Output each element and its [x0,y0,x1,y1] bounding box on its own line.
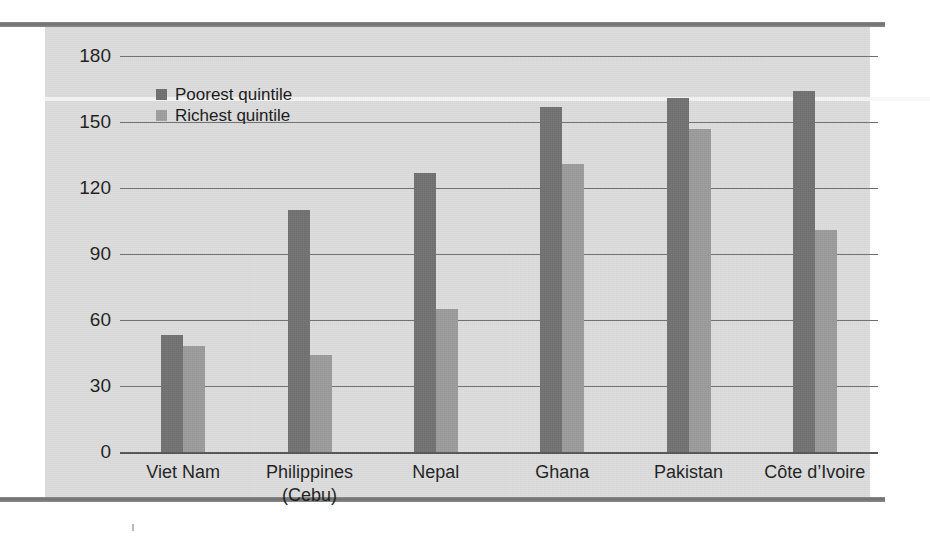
legend-label-richest: Richest quintile [175,106,290,126]
x-tick-label-line1: Ghana [499,461,625,484]
x-tick-label-line1: Viet Nam [120,461,246,484]
bar [288,210,310,452]
bar [793,91,815,452]
y-tick-label-180: 180 [65,45,111,67]
x-tick-label: Ghana [499,461,625,484]
x-axis-tick-labels: Viet NamPhilippines(Cebu)NepalGhanaPakis… [120,461,878,519]
x-tick-label: Côte d’Ivoire [752,461,878,484]
bar [689,129,711,452]
chart-legend: Poorest quintile Richest quintile [156,84,292,126]
bar [310,355,332,452]
bar [667,98,689,452]
legend-item-richest: Richest quintile [156,105,292,126]
bar-group [414,56,458,452]
bar-group [793,56,837,452]
y-tick-label-0: 0 [65,441,111,463]
legend-label-poorest: Poorest quintile [175,85,292,105]
x-tick-label-line1: Pakistan [625,461,751,484]
bar-group [288,56,332,452]
bar [562,164,584,452]
x-tick-label-line1: Côte d’Ivoire [752,461,878,484]
y-tick-label-120: 120 [65,177,111,199]
legend-swatch-icon-richest [156,110,167,121]
legend-item-poorest: Poorest quintile [156,84,292,105]
bar [436,309,458,452]
bar-group [540,56,584,452]
y-tick-label-30: 30 [65,375,111,397]
bar [815,230,837,452]
y-axis-tick-labels: 1801501209060300 [45,56,111,453]
x-tick-label-line1: Philippines [246,461,372,484]
x-tick-label: Viet Nam [120,461,246,484]
bar [161,335,183,452]
x-tick-label-line1: Nepal [373,461,499,484]
y-tick-label-90: 90 [65,243,111,265]
legend-swatch-icon-poorest [156,89,167,100]
bar [183,346,205,452]
bar [540,107,562,452]
chart-panel: 1801501209060300 Viet NamPhilippines(Ceb… [45,27,870,497]
y-tick-label-150: 150 [65,111,111,133]
bar [414,173,436,452]
x-tick-label: Nepal [373,461,499,484]
x-tick-label: Pakistan [625,461,751,484]
x-tick-label: Philippines(Cebu) [246,461,372,507]
y-tick-label-60: 60 [65,309,111,331]
bar-group [667,56,711,452]
x-tick-label-line2: (Cebu) [246,484,372,507]
x-axis-baseline [120,452,878,454]
paper-speck [132,524,134,531]
